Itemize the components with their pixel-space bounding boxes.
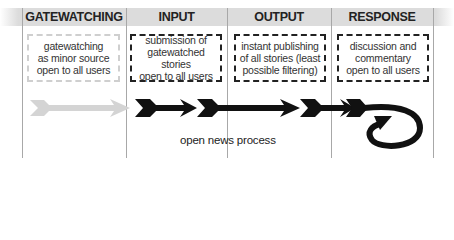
- response-loop-arrow-icon: [364, 107, 420, 146]
- flow-label: open news process: [180, 134, 276, 146]
- open-process-arrow-icon: [135, 99, 368, 117]
- gatewatching-arrow-icon: [30, 99, 130, 117]
